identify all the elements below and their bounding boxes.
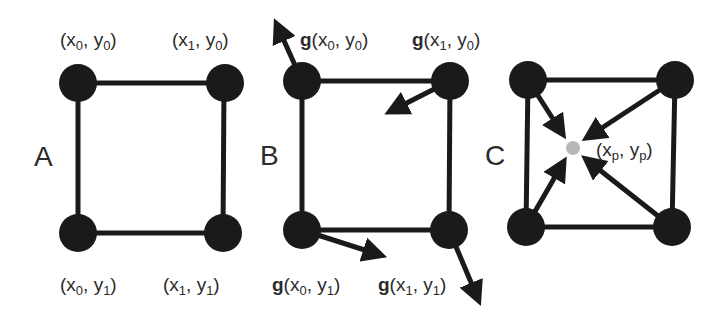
grid-square-a	[78, 83, 225, 233]
label-x1-y0: (x1, y0)	[172, 29, 229, 53]
label-x1-y1: (x1, y1)	[163, 274, 220, 298]
label-g-x1-y1: g(x1, y1)	[378, 274, 446, 298]
grid-node-x1-y0	[206, 64, 244, 102]
label-xp-yp: (xp, yp)	[596, 139, 653, 163]
gradient-interpolation-diagram: A (x0, y0) (x1, y0) (x0, y1) (x1, y1) B	[0, 0, 720, 326]
interpolation-point	[566, 141, 580, 155]
grid-node-x0-y0	[59, 64, 97, 102]
grid-node-x1-y1	[430, 211, 468, 249]
grid-node-bottom-left	[507, 208, 545, 246]
panel-b: B g(x0, y0) g(x1, y0) g(x0, y1) g(x1, y1…	[260, 25, 480, 299]
label-g-x1-y0: g(x1, y0)	[412, 29, 480, 53]
grid-node-top-right	[656, 61, 694, 99]
grid-node-top-left	[509, 61, 547, 99]
panel-a-label: A	[34, 141, 53, 172]
label-g-x0-y0: g(x0, y0)	[300, 29, 368, 53]
panel-b-label: B	[260, 140, 279, 171]
panel-a: A (x0, y0) (x1, y0) (x0, y1) (x1, y1)	[34, 29, 244, 298]
label-g-x0-y1: g(x0, y1)	[272, 274, 340, 298]
panel-c-label: C	[485, 140, 505, 171]
grid-square-b	[302, 81, 450, 230]
label-x0-y0: (x0, y0)	[60, 29, 117, 53]
edge-left	[526, 80, 528, 227]
panel-c: C (xp, yp)	[485, 61, 694, 246]
edge-right	[672, 80, 675, 227]
grid-node-x0-y0	[283, 62, 321, 100]
grid-node-bottom-right	[653, 208, 691, 246]
grid-node-x0-y1	[283, 211, 321, 249]
edge-right	[449, 81, 450, 230]
grid-node-x0-y1	[59, 214, 97, 252]
edge-right	[223, 83, 224, 233]
grid-node-x1-y1	[204, 214, 242, 252]
label-x0-y1: (x0, y1)	[60, 274, 117, 298]
grid-node-x1-y0	[431, 62, 469, 100]
